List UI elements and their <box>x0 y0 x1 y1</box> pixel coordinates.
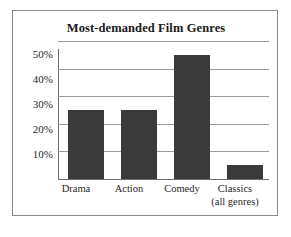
y-axis-tick-label-10: 10% <box>13 148 53 160</box>
x-axis-label-drama-text: Drama <box>62 183 91 194</box>
x-axis-label-classics: Classics (all genres) <box>197 182 273 208</box>
x-axis-label-action-text: Action <box>115 183 144 194</box>
gridline-30 <box>58 96 269 97</box>
y-axis-tick-label-50: 50% <box>13 48 53 60</box>
gridline-40 <box>58 69 269 70</box>
x-axis-label-classics-text: Classics <box>218 183 252 194</box>
bar-classics <box>227 165 263 179</box>
x-axis-line <box>58 179 269 180</box>
gridline-50 <box>58 41 269 42</box>
y-axis-tick-label-30: 30% <box>13 98 53 110</box>
y-axis-tick-label-40: 40% <box>13 73 53 85</box>
x-axis-sublabel-classics-text: (all genres) <box>197 195 273 208</box>
chart-title: Most-demanded Film Genres <box>13 21 279 36</box>
x-axis-label-comedy-text: Comedy <box>164 183 200 194</box>
bar-comedy <box>174 55 210 179</box>
chart-figure-frame: Most-demanded Film Genres 50% 40% 30% 20… <box>12 10 278 216</box>
bar-drama <box>68 110 104 179</box>
bar-action <box>121 110 157 179</box>
plot-area <box>58 41 269 179</box>
y-axis-tick-label-20: 20% <box>13 123 53 135</box>
